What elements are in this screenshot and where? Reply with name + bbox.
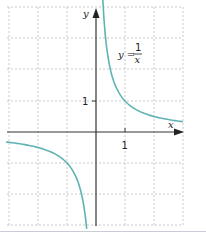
curve-positive-branch [103, 0, 183, 122]
graph-reciprocal-function: 1 1 x y y = 1 x [0, 0, 206, 236]
function-label-numerator: 1 [135, 42, 141, 53]
y-axis-arrow-icon [93, 8, 100, 18]
function-label-denominator: x [135, 54, 141, 65]
curve-negative-branch [6, 142, 87, 229]
y-axis-label: y [82, 8, 89, 19]
function-label-lhs: y = [117, 49, 135, 60]
grid [7, 7, 183, 225]
bottom-separator [0, 231, 206, 232]
y-tick-label: 1 [82, 96, 88, 107]
x-axis-arrow-icon [174, 129, 184, 136]
function-label: y = 1 x [117, 42, 142, 65]
x-tick-label: 1 [122, 140, 128, 151]
